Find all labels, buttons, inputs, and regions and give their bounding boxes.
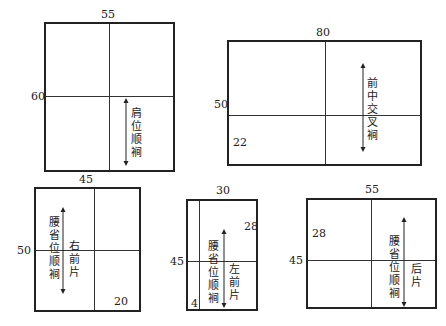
width-label: 30 — [216, 185, 230, 196]
corner-label: 22 — [233, 137, 247, 148]
pleat-text: 肩位顺裥 — [130, 107, 142, 159]
corner-label: 28 — [312, 228, 326, 239]
vertical-fold-line — [109, 24, 110, 170]
piece-label: 右前片 — [68, 240, 80, 279]
vertical-fold-line — [199, 201, 200, 309]
horizontal-fold-line — [308, 260, 435, 261]
height-label: 45 — [289, 255, 303, 266]
fabric-rectangle — [44, 22, 175, 172]
fabric-rectangle: 28 — [306, 198, 437, 309]
corner-label-top: 28 — [244, 221, 258, 232]
vertical-fold-line — [325, 42, 326, 164]
width-label: 45 — [79, 174, 93, 185]
double-arrow-icon — [400, 217, 408, 307]
corner-label-bottom: 4 — [191, 298, 198, 309]
vertical-fold-line — [371, 200, 372, 307]
width-label: 55 — [365, 184, 379, 195]
width-label: 55 — [101, 9, 115, 20]
horizontal-fold-line — [46, 96, 173, 97]
height-label: 60 — [31, 91, 45, 102]
pleat-text: 腰省位顺裥 — [388, 235, 400, 300]
piece-label: 左前片 — [228, 263, 240, 302]
height-label: 45 — [170, 256, 184, 267]
corner-label: 20 — [114, 296, 128, 307]
fabric-rectangle: 22 — [227, 40, 422, 166]
width-label: 80 — [316, 27, 330, 38]
double-arrow-icon — [59, 207, 67, 294]
height-label: 50 — [17, 245, 31, 256]
double-arrow-icon — [122, 98, 130, 166]
piece-label: 后片 — [410, 263, 422, 289]
height-label: 50 — [214, 99, 228, 110]
double-arrow-icon — [220, 229, 228, 308]
pleat-text: 腰省位顺裥 — [207, 240, 219, 305]
pleat-text: 前中交叉裥 — [366, 77, 378, 142]
pleat-text: 腰省位顺裥 — [48, 216, 60, 281]
horizontal-fold-line — [229, 115, 420, 116]
